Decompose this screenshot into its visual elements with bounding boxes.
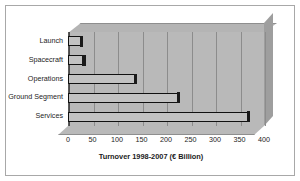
chart-frame: LaunchSpacecraftOperationsGround Segment… [5, 5, 295, 176]
x-tick-label-350: 350 [234, 135, 246, 144]
x-tick-label-100: 100 [111, 135, 123, 144]
chart-figure: LaunchSpacecraftOperationsGround Segment… [0, 0, 300, 181]
plot-bottom-face-3d [58, 126, 264, 135]
bar-row [68, 51, 264, 70]
category-label-services: Services [35, 107, 63, 126]
category-axis-labels: LaunchSpacecraftOperationsGround Segment… [6, 32, 66, 126]
bar-ground-segment [68, 93, 180, 103]
bar-spacecraft [68, 55, 85, 65]
x-tick-label-200: 200 [160, 135, 172, 144]
bar-operations [68, 74, 137, 84]
plot-wrap: LaunchSpacecraftOperationsGround Segment… [6, 6, 296, 177]
bar-row [68, 107, 264, 126]
bar-launch [68, 36, 83, 46]
x-tick-label-150: 150 [136, 135, 148, 144]
x-tick-label-250: 250 [185, 135, 197, 144]
x-tick-label-300: 300 [209, 135, 221, 144]
x-axis-tick-labels: 050100150200250300350400 [68, 135, 264, 147]
category-label-launch: Launch [39, 32, 63, 51]
x-axis-title: Turnover 1998-2007 (€ Billion) [6, 152, 296, 161]
x-tick-label-50: 50 [89, 135, 97, 144]
gridline-400 [265, 32, 266, 126]
bar-row [68, 70, 264, 89]
x-tick-label-400: 400 [258, 135, 270, 144]
category-label-spacecraft: Spacecraft [29, 51, 63, 70]
bar-row [68, 88, 264, 107]
bar-services [68, 112, 249, 122]
category-label-operations: Operations [28, 70, 63, 89]
bars-layer [68, 32, 264, 126]
bar-row [68, 32, 264, 51]
category-label-ground-segment: Ground Segment [8, 88, 63, 107]
x-tick-label-0: 0 [66, 135, 70, 144]
